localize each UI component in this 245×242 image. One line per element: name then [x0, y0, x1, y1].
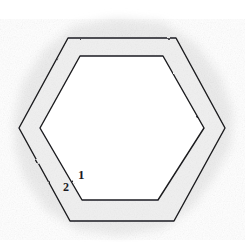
callout-label-1: 1: [78, 168, 85, 181]
hexagon-diagram: [0, 0, 245, 242]
figure-canvas: 1 2: [0, 0, 245, 242]
callout-label-2: 2: [63, 181, 69, 193]
